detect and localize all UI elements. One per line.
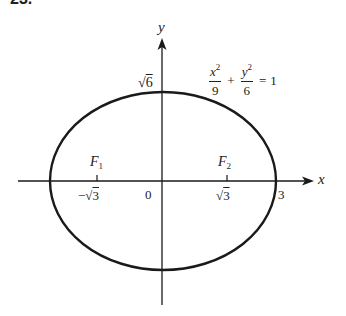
denominator: 9	[212, 82, 219, 99]
focus-subscript: 1	[99, 161, 104, 171]
exponent: 2	[216, 62, 221, 72]
x-axis-label: x	[318, 172, 325, 187]
plus-sign: +	[227, 73, 234, 89]
x-intercept-label: 3	[278, 188, 285, 201]
pos-focus-x-label: √3	[216, 189, 230, 202]
focus2-label: F2	[218, 155, 231, 171]
y-axis-label: y	[158, 20, 165, 35]
rhs-value: 1	[270, 73, 277, 89]
focus-letter: F	[218, 154, 227, 169]
origin-label: 0	[145, 188, 152, 201]
fraction-y: y2 6	[241, 62, 253, 99]
ellipse-equation: x2 9 + y2 6 = 1	[207, 62, 277, 99]
fraction-x: x2 9	[209, 62, 221, 99]
equals-sign: =	[259, 73, 266, 89]
focus1-label: F1	[90, 155, 103, 171]
y-intercept-label: √6	[138, 76, 153, 90]
exponent: 2	[247, 62, 252, 72]
radicand: 3	[223, 188, 230, 203]
ellipse-diagram	[0, 0, 346, 316]
radical-sign: √	[138, 75, 146, 90]
focus-subscript: 2	[227, 161, 232, 171]
radicand: 6	[146, 75, 153, 90]
neg-focus-x-label: −√3	[78, 189, 99, 202]
denominator: 6	[244, 82, 251, 99]
focus-letter: F	[90, 154, 99, 169]
radicand: 3	[92, 188, 99, 203]
